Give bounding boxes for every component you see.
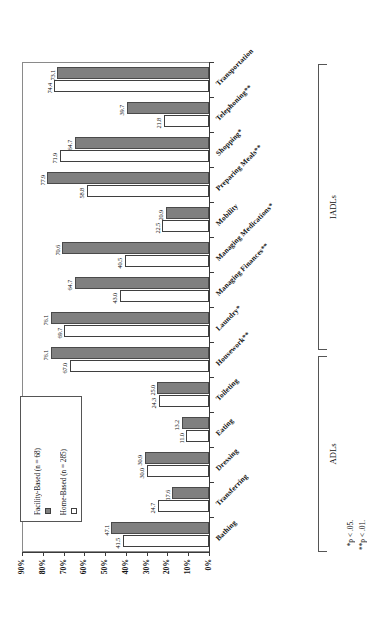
percent-axis-line [22, 552, 210, 553]
bar-value-label: 11.0 [179, 429, 185, 444]
chart-legend: Home-Based (n = 285) Facility-Based (n =… [20, 396, 82, 522]
bar-home-based [147, 465, 209, 478]
bar-value-label: 69.7 [57, 324, 63, 339]
bar-value-label: 77.9 [40, 171, 46, 186]
legend-swatch-home-icon [71, 508, 77, 514]
category-tick [209, 97, 214, 98]
percent-tick-label: 40% [121, 559, 130, 574]
legend-item-facility: Facility-Based (n = 68) [25, 403, 51, 515]
bar-home-based [87, 185, 209, 198]
bar-value-label: 17.6 [165, 486, 171, 501]
bracket-arm-bottom [318, 551, 327, 552]
category-label: Toileting [214, 376, 241, 403]
bar-home-based [120, 290, 209, 303]
bar-value-label: 64.7 [67, 276, 73, 291]
legend-swatch-facility-icon [45, 508, 51, 514]
legend-label-facility: Facility-Based (n = 68) [34, 448, 42, 515]
category-label: Laundry* [214, 304, 243, 333]
bar-group [22, 347, 209, 360]
bracket-spine [318, 64, 319, 350]
bar-group [22, 102, 209, 115]
category-tick [209, 447, 214, 448]
bar-value-label: 67.0 [62, 359, 68, 374]
bar-facility-based [51, 347, 209, 360]
bar-home-based [159, 395, 209, 408]
bar-value-label: 30.9 [137, 451, 143, 466]
bar-value-label: 76.1 [43, 311, 49, 326]
percent-tick [84, 552, 85, 556]
category-label: Dressing [214, 447, 240, 473]
percent-tick-label: 30% [142, 559, 151, 574]
bar-facility-based [127, 102, 209, 115]
category-label: Telephoning** [214, 83, 254, 123]
bar-value-label: 73.1 [50, 66, 56, 81]
bar-value-label: 30.0 [139, 464, 145, 479]
bar-facility-based [166, 207, 209, 220]
footnote-p01: **p < .01. [358, 520, 367, 550]
bar-group [22, 172, 209, 185]
percent-tick-label: 60% [79, 559, 88, 574]
category-tick [209, 482, 214, 483]
bar-home-based [60, 150, 209, 163]
bar-facility-based [182, 417, 209, 430]
category-tick [209, 517, 214, 518]
category-tick [209, 307, 214, 308]
group-label-iadls: IADLs [328, 195, 338, 219]
bar-home-based [70, 360, 209, 373]
percent-tick [126, 552, 127, 556]
category-tick [209, 377, 214, 378]
bracket-arm-top [318, 356, 327, 357]
bar-home-based [162, 220, 209, 233]
bar-home-based [123, 535, 209, 548]
percent-tick-label: 20% [162, 559, 171, 574]
bar-value-label: 24.7 [150, 499, 156, 514]
category-label: Bathing [214, 518, 239, 543]
percent-tick [43, 552, 44, 556]
legend-item-home: Home-Based (n = 285) [51, 403, 77, 515]
percent-tick [167, 552, 168, 556]
bracket-arm-bottom [318, 349, 327, 350]
category-tick [209, 412, 214, 413]
category-tick [209, 167, 214, 168]
bar-home-based [64, 325, 209, 338]
bar-group [22, 382, 209, 395]
bar-value-label: 39.7 [119, 101, 125, 116]
bar-group [22, 115, 209, 128]
bar-facility-based [51, 312, 209, 325]
bar-value-label: 21.8 [156, 114, 162, 129]
bar-group [22, 360, 209, 373]
bar-value-label: 64.7 [67, 136, 73, 151]
bar-group [22, 325, 209, 338]
bar-facility-based [172, 487, 209, 500]
bar-facility-based [145, 452, 209, 465]
percent-tick [147, 552, 148, 556]
bar-value-label: 25.0 [150, 381, 156, 396]
bar-group [22, 220, 209, 233]
percent-tick-label: 50% [100, 559, 109, 574]
category-label: Mobility [214, 202, 240, 228]
bar-facility-based [75, 277, 209, 290]
group-label-adls: ADLs [328, 443, 338, 464]
bar-value-label: 47.1 [104, 521, 110, 536]
bar-value-label: 41.5 [115, 534, 121, 549]
category-label: Shopping* [214, 127, 245, 158]
bar-home-based [158, 500, 209, 513]
footnotes: *p < .05. **p < .01. [344, 520, 376, 612]
bracket-arm-top [318, 64, 327, 65]
bar-home-based [186, 430, 209, 443]
bar-home-based [54, 80, 209, 93]
footnote-p05: *p < .05. [346, 520, 355, 546]
legend-label-home: Home-Based (n = 285) [60, 449, 68, 515]
bar-group [22, 137, 209, 150]
percent-tick [64, 552, 65, 556]
bar-facility-based [157, 382, 209, 395]
category-tick [209, 342, 214, 343]
percent-tick-label: 80% [38, 559, 47, 574]
bar-value-label: 13.2 [174, 416, 180, 431]
bar-facility-based [57, 67, 209, 80]
bar-facility-based [111, 522, 209, 535]
category-tick [209, 62, 214, 63]
bar-home-based [164, 115, 209, 128]
percent-tick-label: 10% [183, 559, 192, 574]
percent-axis: 90%80%70%60%50%40%30%20%10%0% [22, 552, 210, 612]
